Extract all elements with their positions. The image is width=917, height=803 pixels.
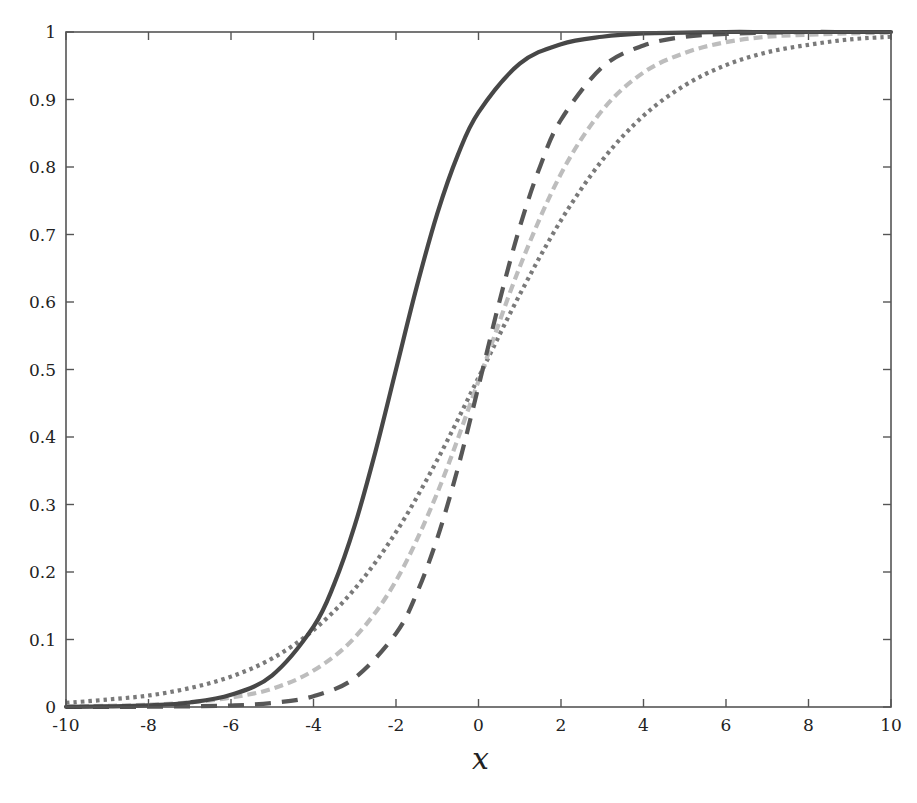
x-tick-label: 2 xyxy=(556,715,567,735)
x-tick-labels: -10-8-6-4-20246810 xyxy=(52,715,902,735)
series-line-dash-dot-light xyxy=(66,33,891,707)
y-tick-label: 1 xyxy=(45,22,56,42)
y-tick-label: 0.3 xyxy=(29,495,56,515)
plot-frame xyxy=(66,32,891,707)
y-tick-label: 0 xyxy=(45,697,56,717)
x-tick-label: -6 xyxy=(223,715,240,735)
x-tick-label: -10 xyxy=(52,715,79,735)
x-tick-label: 0 xyxy=(473,715,484,735)
x-tick-label: 8 xyxy=(803,715,814,735)
y-tick-label: 0.2 xyxy=(29,562,56,582)
y-tick-label: 0.4 xyxy=(29,427,56,447)
y-tick-label: 0.9 xyxy=(29,90,56,110)
series-line-dotted xyxy=(66,37,891,703)
y-tick-label: 0.6 xyxy=(29,292,56,312)
series-line-solid xyxy=(66,32,891,707)
x-tick-label: 6 xyxy=(721,715,732,735)
x-tick-label: -2 xyxy=(388,715,405,735)
x-axis-label: x xyxy=(472,741,489,776)
ticks-layer xyxy=(66,32,891,707)
x-tick-label: 4 xyxy=(638,715,649,735)
y-tick-labels: 00.10.20.30.40.50.60.70.80.91 xyxy=(29,22,56,717)
y-tick-label: 0.5 xyxy=(29,360,56,380)
x-tick-label: -4 xyxy=(305,715,322,735)
y-tick-label: 0.7 xyxy=(29,225,56,245)
x-tick-label: 10 xyxy=(880,715,902,735)
x-tick-label: -8 xyxy=(140,715,157,735)
y-tick-label: 0.1 xyxy=(29,630,56,650)
series-line-dashed xyxy=(66,32,891,707)
sigmoid-chart: -10-8-6-4-20246810 00.10.20.30.40.50.60.… xyxy=(0,0,917,803)
y-tick-label: 0.8 xyxy=(29,157,56,177)
curves-layer xyxy=(66,32,891,707)
